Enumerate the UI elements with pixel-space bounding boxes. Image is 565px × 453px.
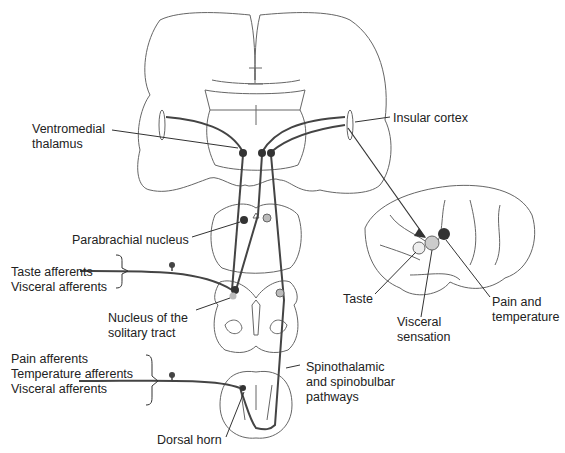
label-line: Visceral afferents xyxy=(11,382,133,397)
label-line: Ventromedial xyxy=(32,122,105,137)
label-pain-temperature: Pain and temperature xyxy=(492,295,559,325)
label-line: temperature xyxy=(492,310,559,325)
taste-spot xyxy=(413,242,425,254)
label-line: Taste afferents xyxy=(11,265,107,280)
label-parabrachial-nucleus: Parabrachial nucleus xyxy=(72,233,189,248)
label-line: Pain afferents xyxy=(11,352,133,367)
label-line: Visceral xyxy=(397,315,451,330)
label-visceral-sensation: Visceral sensation xyxy=(397,315,451,345)
label-line: Visceral afferents xyxy=(11,280,107,295)
arrow-head-icon xyxy=(414,228,426,238)
insula-arrow xyxy=(348,128,425,237)
label-line: sensation xyxy=(397,330,451,345)
pain-temp-spot xyxy=(438,228,450,240)
label-line: thalamus xyxy=(32,137,105,152)
label-nucleus-solitary-tract: Nucleus of the solitary tract xyxy=(108,311,188,341)
label-line: and spinobulbar xyxy=(306,375,395,390)
label-insular-cortex: Insular cortex xyxy=(393,111,468,126)
label-ventromedial-thalamus: Ventromedial thalamus xyxy=(32,122,105,152)
label-spinothalamic-pathways: Spinothalamic and spinobulbar pathways xyxy=(306,360,395,405)
label-taste: Taste xyxy=(343,292,373,307)
label-line: Spinothalamic xyxy=(306,360,395,375)
medulla-section xyxy=(214,281,298,353)
label-line: Temperature afferents xyxy=(11,367,133,382)
label-line: pathways xyxy=(306,390,395,405)
brain-coronal-section xyxy=(138,13,391,194)
leader-lines xyxy=(112,117,490,437)
label-line: solitary tract xyxy=(108,326,188,341)
pons-section xyxy=(211,204,301,273)
label-taste-visceral-afferents: Taste afferents Visceral afferents xyxy=(11,265,107,295)
visceral-spot xyxy=(425,236,439,250)
label-line: Pain and xyxy=(492,295,559,310)
label-line: Nucleus of the xyxy=(108,311,188,326)
diagram-canvas: Ventromedial thalamus Insular cortex Par… xyxy=(0,0,565,453)
label-somatic-afferents: Pain afferents Temperature afferents Vis… xyxy=(11,352,133,397)
label-dorsal-horn: Dorsal horn xyxy=(157,433,222,448)
